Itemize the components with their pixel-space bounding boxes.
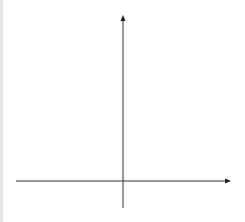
axes [16,15,231,208]
exponential-chart [0,0,245,222]
x-axis-arrow-icon [225,179,231,184]
y-axis-arrow-icon [121,15,126,21]
